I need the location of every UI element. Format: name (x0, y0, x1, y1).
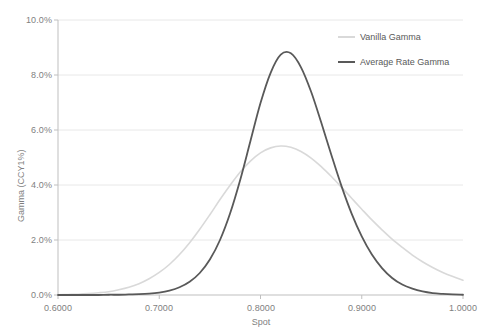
x-tick-label-1-0000: 1.0000 (433, 303, 481, 313)
legend-label-average-rate-gamma: Average Rate Gamma (360, 57, 449, 67)
y-tick-label-0: 0.0% (10, 290, 52, 300)
x-tick-label-0-7000: 0.7000 (129, 303, 189, 313)
legend-entry-average-rate-gamma[interactable]: Average Rate Gamma (338, 57, 449, 67)
x-tick-label-0-8000: 0.8000 (231, 303, 291, 313)
legend-swatch-average-rate-gamma (338, 61, 355, 63)
y-tick-label-6: 6.0% (10, 125, 52, 135)
chart-plot-canvas (0, 0, 481, 336)
y-axis-title: Gamma (CCY1%) (16, 149, 26, 222)
gamma-vs-spot-chart: 10.0% 8.0% 6.0% 4.0% 2.0% 0.0% 0.6000 0.… (0, 0, 481, 336)
series-line-average-rate-gamma (58, 52, 463, 295)
x-tick-label-0-6000: 0.6000 (28, 303, 88, 313)
y-tick-label-10: 10.0% (10, 15, 52, 25)
legend-swatch-vanilla-gamma (338, 36, 355, 38)
series-line-vanilla-gamma (58, 146, 463, 295)
y-tick-label-8: 8.0% (10, 70, 52, 80)
legend-entry-vanilla-gamma[interactable]: Vanilla Gamma (338, 32, 421, 42)
x-tick-label-0-9000: 0.9000 (332, 303, 392, 313)
legend-label-vanilla-gamma: Vanilla Gamma (360, 32, 421, 42)
y-tick-label-2: 2.0% (10, 235, 52, 245)
x-axis-title: Spot (231, 317, 291, 327)
